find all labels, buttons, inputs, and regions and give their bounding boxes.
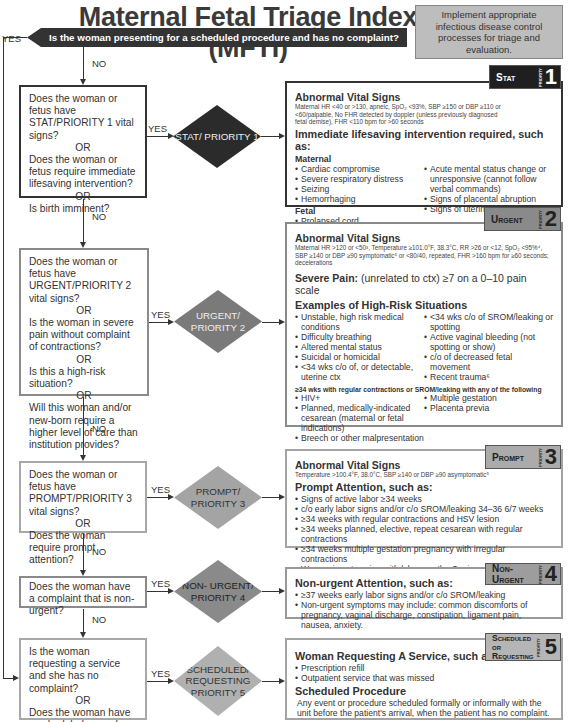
diamond-stat-priority-1: STAT/ PRIORITY 1 bbox=[173, 105, 261, 168]
arrow-right-icon bbox=[168, 133, 174, 139]
vital-signs-text: Maternal HR <40 or >130, apneic, SpO₂ <9… bbox=[295, 103, 510, 126]
question-box-priority-1: Does the woman or fetus have STAT/PRIORI… bbox=[19, 85, 147, 198]
connector-line bbox=[83, 609, 84, 632]
panel-stat: Abnormal Vital Signs Maternal HR <40 or … bbox=[285, 81, 563, 207]
badge-prompt: PromptPRIORITY3 bbox=[485, 445, 561, 469]
diamond-scheduled-priority-5: SCHEDULED/ REQUESTING PRIORITY 5 bbox=[174, 646, 262, 716]
infection-control-note: Implement appropriate infectious disease… bbox=[415, 5, 563, 59]
yes-label: YES bbox=[151, 484, 170, 495]
diamond-urgent-priority-2: URGENT/ PRIORITY 2 bbox=[174, 290, 262, 353]
question-box-priority-3: Does the woman or fetus have PROMPT/PRIO… bbox=[19, 461, 147, 533]
badge-stat: StatPRIORITY1 bbox=[489, 65, 561, 89]
yes-label-top: YES bbox=[2, 33, 21, 44]
yes-label: YES bbox=[151, 668, 170, 679]
no-label: NO bbox=[92, 614, 106, 625]
diamond-prompt-priority-3: PROMPT/ PRIORITY 3 bbox=[174, 466, 262, 529]
badge-scheduled: Scheduled or RequestingPRIORITY5 bbox=[485, 633, 561, 661]
badge-non-urgent: Non-UrgentPRIORITY4 bbox=[485, 563, 561, 585]
question-box-priority-2: Does the woman or fetus have URGENT/PRIO… bbox=[19, 248, 149, 396]
yes-label: YES bbox=[151, 578, 170, 589]
yes-label: YES bbox=[151, 309, 170, 320]
diamond-non-urgent-priority-4: NON- URGENT/ PRIORITY 4 bbox=[174, 560, 262, 623]
question-box-priority-4: Does the woman have a complaint that is … bbox=[19, 576, 147, 608]
connector-line bbox=[83, 47, 84, 80]
top-question-banner: Is the woman presenting for a scheduled … bbox=[27, 28, 407, 47]
no-label: NO bbox=[92, 58, 106, 69]
question-box-priority-5: Is the woman requesting a service and sh… bbox=[19, 638, 147, 720]
yes-label: YES bbox=[148, 123, 167, 134]
connector-line bbox=[3, 37, 27, 38]
heading: Abnormal Vital Signs bbox=[295, 91, 553, 103]
badge-urgent: UrgentPRIORITY2 bbox=[484, 207, 561, 231]
panel-urgent: Abnormal Vital Signs Maternal HR >120 or… bbox=[285, 222, 563, 427]
connector-line bbox=[3, 37, 4, 678]
